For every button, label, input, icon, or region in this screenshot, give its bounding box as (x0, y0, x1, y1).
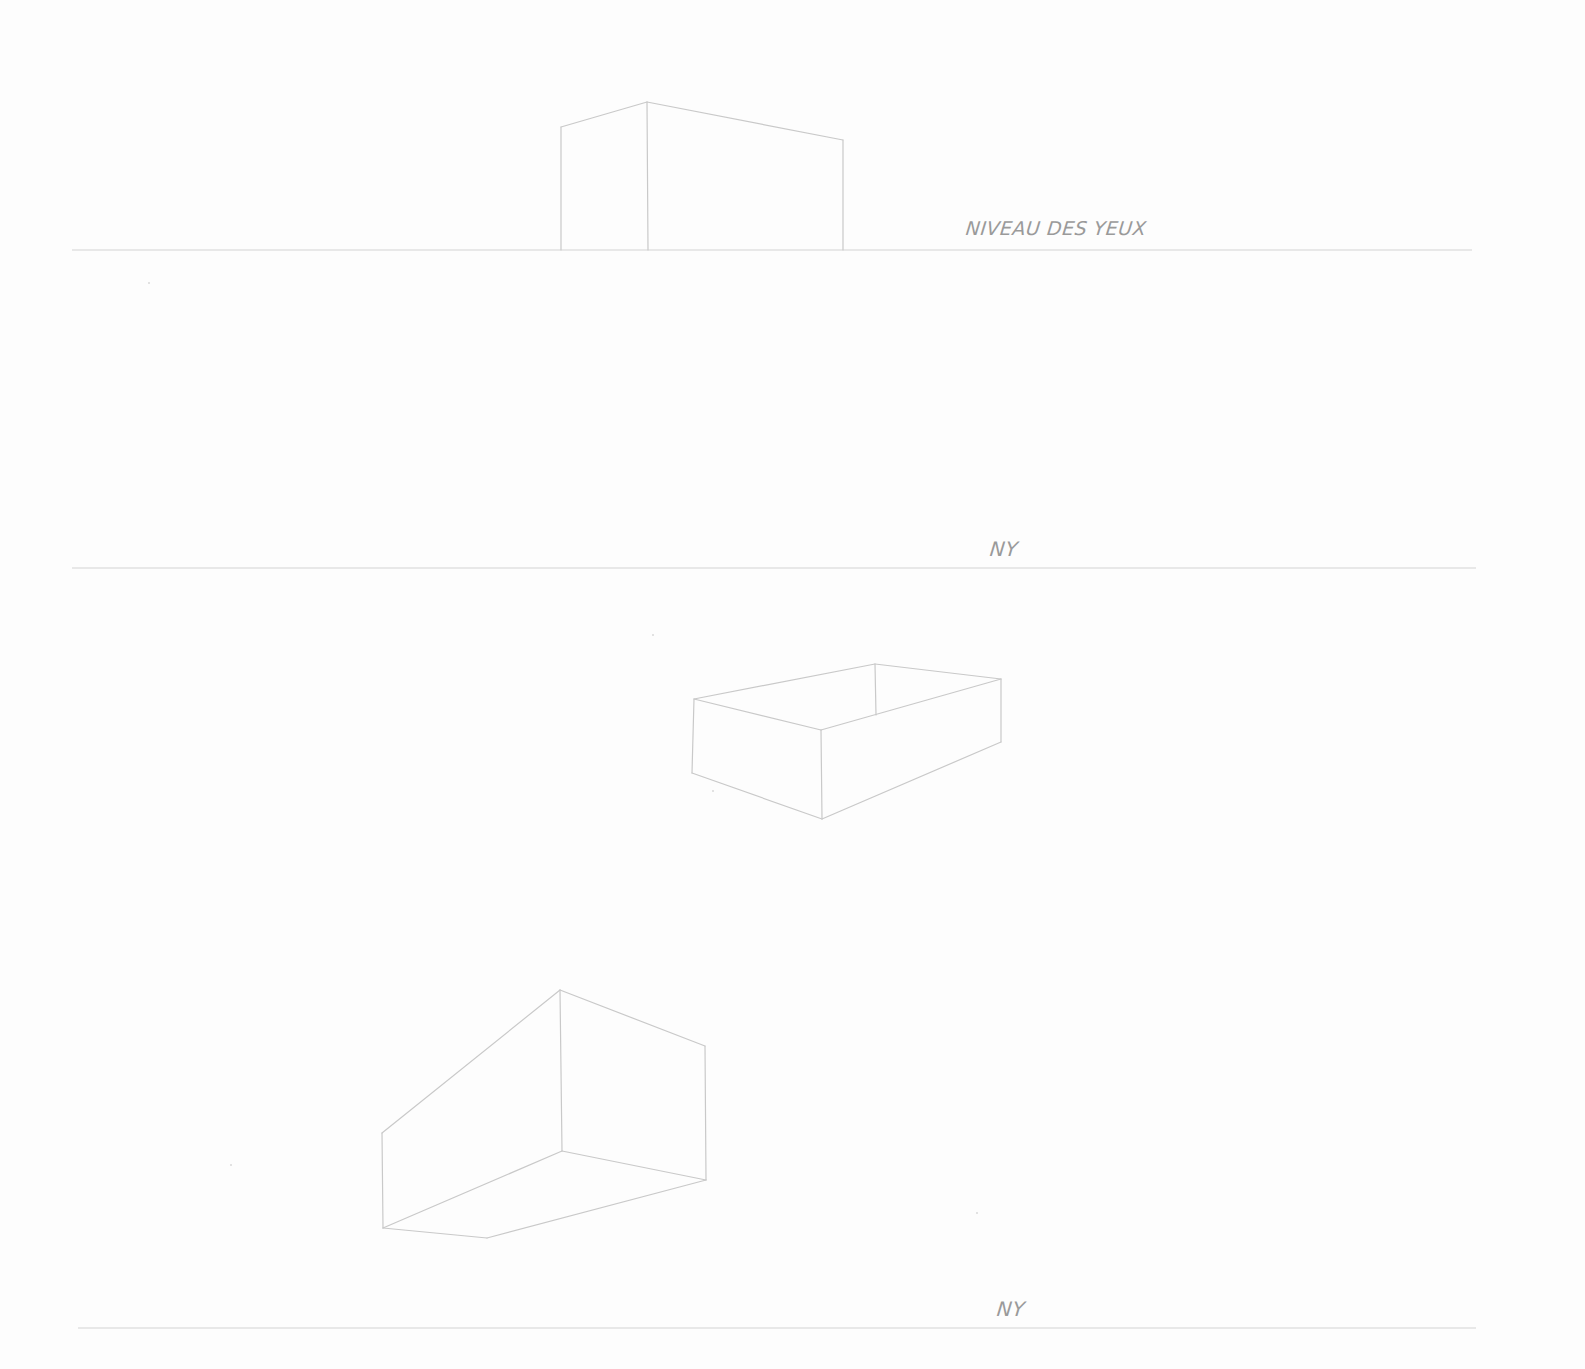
box-floating-above-edge (560, 990, 562, 1151)
box-above-eye-level (561, 102, 843, 250)
box-below-eye-level-edge (875, 664, 1001, 679)
box-below-eye-level-edge (692, 699, 694, 773)
box-below-eye-level-edge (821, 730, 822, 819)
paper-speck (712, 790, 714, 792)
box-below-eye-level-edge (694, 664, 875, 699)
box-below-eye-level-edge (694, 699, 821, 730)
box-floating-above-edge (562, 1151, 706, 1180)
box-above-eye-level-edge (561, 102, 647, 127)
box-below-eye-level-edge (875, 664, 876, 715)
perspective-boxes (382, 102, 1001, 1238)
eye-level-label-2: NY (989, 537, 1020, 561)
box-floating-above-edge (560, 990, 705, 1046)
box-below-eye-level-edge (692, 773, 822, 819)
box-floating-above-edge (383, 1228, 487, 1238)
box-floating-above-edge (383, 1151, 562, 1228)
box-floating-above-edge (705, 1046, 706, 1180)
box-below-eye-level-edge (822, 742, 1001, 819)
drawing-sheet: NIVEAU DES YEUX NY NY (0, 0, 1585, 1369)
box-above-eye-level-edge (647, 102, 648, 250)
box-floating-above-edge (382, 1133, 383, 1228)
paper-speck (652, 634, 654, 636)
eye-level-label-1: NIVEAU DES YEUX (965, 217, 1148, 239)
paper-speck (148, 282, 150, 284)
box-above-eye-level-edge (647, 102, 843, 140)
perspective-drawing (0, 0, 1585, 1369)
box-below-eye-level (692, 664, 1001, 819)
eye-level-lines (72, 250, 1476, 1328)
box-floating-above-edge (487, 1180, 706, 1238)
box-floating-above (382, 990, 706, 1238)
box-floating-above-edge (382, 990, 560, 1133)
box-below-eye-level-edge (821, 679, 1001, 730)
eye-level-label-3: NY (996, 1297, 1027, 1321)
paper-speck (976, 1212, 978, 1214)
paper-speck (230, 1164, 232, 1166)
